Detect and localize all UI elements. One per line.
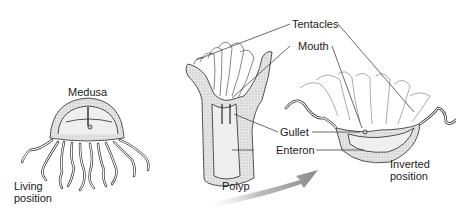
label-gullet: Gullet: [280, 126, 309, 138]
label-living: Living: [14, 180, 43, 192]
cnidarian-diagram: Medusa Living position Tentacles Mouth G…: [0, 0, 456, 216]
label-medusa: Medusa: [68, 86, 107, 98]
label-polyp: Polyp: [222, 180, 250, 192]
label-enteron: Enteron: [276, 144, 315, 156]
label-living-position: position: [14, 192, 52, 204]
label-mouth: Mouth: [298, 40, 329, 52]
medusa-figure: [22, 98, 149, 190]
label-inverted: Inverted: [390, 158, 430, 170]
label-inverted-position: position: [390, 170, 428, 182]
label-tentacles: Tentacles: [292, 18, 338, 30]
polyp-figure: [186, 42, 272, 186]
